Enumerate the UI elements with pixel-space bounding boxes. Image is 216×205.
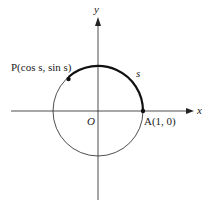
point-p [66, 77, 70, 81]
x-axis-label: x [197, 105, 202, 116]
arc-label: s [136, 68, 140, 79]
point-a-label: A(1, 0) [144, 116, 176, 127]
point-p-label: P(cos s, sin s) [11, 62, 72, 73]
x-axis-arrow-icon [186, 108, 194, 114]
y-axis-label: y [94, 4, 99, 15]
y-axis-arrow-icon [95, 17, 101, 26]
origin-label: O [87, 116, 95, 127]
unit-circle-diagram: y x O P(cos s, sin s) A(1, 0) s [0, 0, 216, 205]
diagram-graphics [0, 0, 216, 205]
arc-s [69, 66, 144, 111]
point-a [141, 109, 145, 113]
